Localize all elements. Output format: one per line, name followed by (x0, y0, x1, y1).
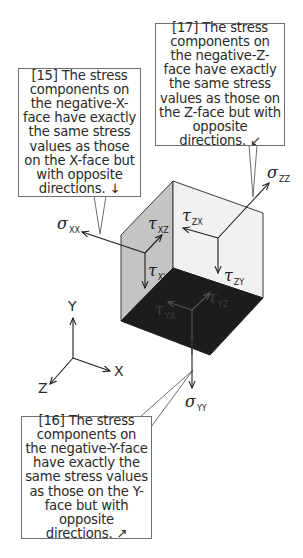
tau-zy-label: τZY (224, 266, 244, 287)
y-axis-label: Y (68, 298, 77, 314)
callout-17-tail (249, 145, 257, 197)
callout-15-text: [15] The stress components on the negati… (22, 69, 137, 197)
x-axis-label: X (114, 363, 124, 379)
callout-17-text: [17] The stress components on the negati… (159, 21, 281, 149)
tau-yx-label: τYX (155, 300, 175, 321)
z-axis-arrow (50, 358, 73, 384)
callout-15: [15] The stress components on the negati… (18, 68, 141, 197)
callout-16: [16] The stress components on the negati… (21, 416, 152, 539)
z-axis-label: Z (38, 380, 48, 396)
callout-16-text: [16] The stress components on the negati… (25, 414, 148, 542)
tau-xz-label: τXZ (148, 214, 169, 235)
x-axis-arrow (73, 358, 110, 371)
sigma-xx-label: σXX (57, 214, 80, 235)
sigma-yy-label: σYY (185, 392, 207, 413)
tau-zx-label: τZX (182, 206, 203, 227)
sigma-zz-label: σZZ (267, 163, 290, 184)
callout-15-tail (94, 196, 106, 234)
coordinate-axes (50, 318, 110, 384)
callout-17: [17] The stress components on the negati… (155, 23, 285, 146)
tau-yz-label: τYZ (208, 288, 228, 309)
tau-xy-label: τXY (148, 261, 168, 282)
